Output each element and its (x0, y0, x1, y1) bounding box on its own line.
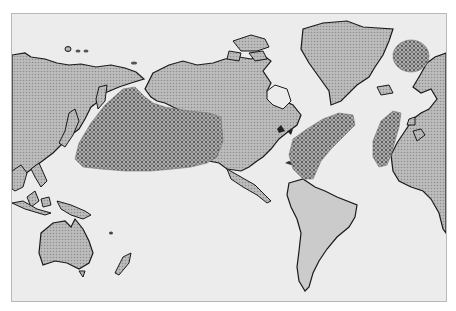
world-map (12, 14, 446, 301)
map-frame (11, 13, 447, 302)
norwegian-sea-stipple (393, 40, 429, 72)
